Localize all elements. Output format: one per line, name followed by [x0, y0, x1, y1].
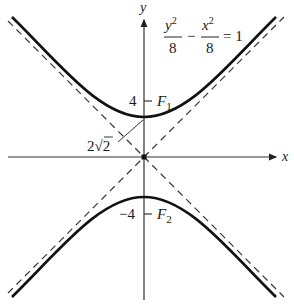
focus-f2-label: F2: [156, 206, 172, 225]
vertex-leader-line: [118, 120, 143, 142]
svg-text:= 1: = 1: [223, 28, 243, 44]
svg-text:8: 8: [206, 40, 214, 56]
focus-f1-label: F1: [156, 93, 172, 112]
hyperbola-diagram: x y 4 −4 F1 F2 2√2 y2 8 − x2 8: [0, 0, 294, 308]
svg-text:y2: y2: [163, 15, 177, 33]
svg-text:8: 8: [169, 40, 177, 56]
svg-text:−: −: [187, 28, 195, 44]
tick-label-4: 4: [129, 93, 137, 109]
y-axis-label: y: [138, 0, 147, 15]
tick-label-neg-4: −4: [119, 206, 135, 222]
svg-text:x2: x2: [201, 15, 214, 33]
x-axis-label: x: [281, 149, 289, 164]
equation: y2 8 − x2 8 = 1: [163, 15, 243, 56]
vertex-distance-label: 2√2: [87, 138, 110, 154]
origin-point: [142, 155, 147, 160]
